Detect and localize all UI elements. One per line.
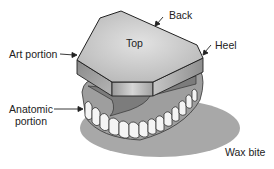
label-back: Back bbox=[169, 9, 192, 21]
label-wax-bite: Wax bite bbox=[225, 146, 265, 158]
label-top: Top bbox=[126, 37, 143, 49]
label-anatomic-portion-line1: Anatomic bbox=[8, 103, 54, 115]
dental-model-diagram: Top Back Heel Art portion Anatomic porti… bbox=[0, 0, 274, 169]
label-heel: Heel bbox=[215, 39, 237, 51]
block-front-side bbox=[112, 82, 153, 96]
dental-model-illustration bbox=[0, 0, 274, 169]
label-anatomic-portion-line2: portion bbox=[8, 115, 54, 127]
label-art-portion: Art portion bbox=[9, 48, 57, 60]
